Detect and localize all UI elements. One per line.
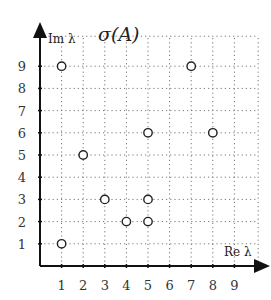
y-tick-label: 6 bbox=[18, 126, 26, 141]
y-tick-label: 3 bbox=[18, 192, 26, 207]
x-tick-label: 9 bbox=[230, 278, 238, 293]
x-tick-label: 1 bbox=[57, 278, 65, 293]
y-tick-label: 2 bbox=[18, 215, 26, 230]
x-axis-arrow-icon bbox=[254, 259, 270, 273]
eigenvalue-marker bbox=[144, 217, 152, 225]
x-tick-label: 6 bbox=[165, 278, 173, 293]
chart-title: σ(A) bbox=[98, 23, 140, 45]
x-tick-label: 8 bbox=[209, 278, 217, 293]
y-tick-label: 7 bbox=[18, 104, 26, 119]
y-tick-label: 1 bbox=[18, 237, 26, 252]
grid-lines bbox=[38, 36, 258, 268]
y-tick-labels: 123456789 bbox=[18, 59, 26, 252]
eigenvalue-marker bbox=[57, 240, 65, 248]
y-axis-arrow-icon bbox=[33, 22, 47, 38]
x-axis-label: Re λ bbox=[224, 245, 252, 259]
eigenvalue-marker bbox=[101, 195, 109, 203]
y-tick-label: 9 bbox=[18, 59, 26, 74]
x-tick-label: 5 bbox=[144, 278, 152, 293]
eigenvalue-marker bbox=[187, 62, 195, 70]
x-tick-label: 3 bbox=[101, 278, 109, 293]
x-tick-label: 7 bbox=[187, 278, 195, 293]
eigenvalue-marker bbox=[144, 195, 152, 203]
y-tick-label: 8 bbox=[18, 81, 26, 96]
y-tick-label: 5 bbox=[18, 148, 26, 163]
eigenvalue-marker bbox=[79, 151, 87, 159]
eigenvalue-marker bbox=[144, 129, 152, 137]
eigenvalue-scatter-chart: 123456789 123456789 σ(A) Im λ Re λ bbox=[0, 0, 271, 300]
x-tick-label: 4 bbox=[122, 278, 130, 293]
x-tick-labels: 123456789 bbox=[57, 278, 238, 293]
eigenvalue-marker bbox=[122, 217, 130, 225]
x-tick-label: 2 bbox=[79, 278, 87, 293]
y-axis-label: Im λ bbox=[48, 32, 76, 46]
eigenvalue-marker bbox=[209, 129, 217, 137]
y-tick-label: 4 bbox=[18, 170, 26, 185]
eigenvalue-marker bbox=[57, 62, 65, 70]
